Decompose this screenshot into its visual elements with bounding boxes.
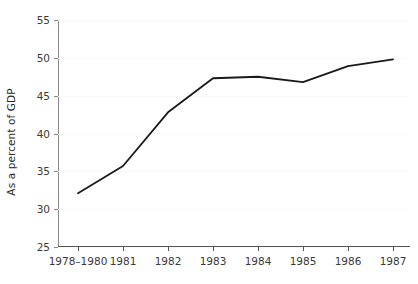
y-tick-label: 55 <box>37 14 50 26</box>
x-tick-label: 1987 <box>380 255 407 267</box>
y-tick-label: 45 <box>37 90 50 102</box>
y-axis-title: As a percent of GDP <box>0 0 22 284</box>
x-tick-mark <box>213 247 214 251</box>
y-tick-label: 40 <box>37 128 50 140</box>
x-tick-mark <box>258 247 259 251</box>
x-tick-mark <box>123 247 124 251</box>
x-tick-label: 1986 <box>335 255 362 267</box>
x-tick-mark <box>168 247 169 251</box>
plot-area: 25303540455055 1978–19801981198219831984… <box>58 20 410 247</box>
x-tick-label: 1982 <box>155 255 182 267</box>
chart-figure: As a percent of GDP 25303540455055 1978–… <box>0 0 418 284</box>
x-tick-label: 1981 <box>110 255 137 267</box>
gridline <box>58 247 410 248</box>
y-tick-mark <box>54 247 58 248</box>
x-tick-label: 1978–1980 <box>49 255 108 267</box>
x-tick-label: 1984 <box>245 255 272 267</box>
x-tick-label: 1983 <box>200 255 227 267</box>
line-series-gdp-percent <box>78 59 393 193</box>
y-tick-label: 25 <box>37 241 50 253</box>
x-tick-mark <box>348 247 349 251</box>
y-tick-label: 30 <box>37 203 50 215</box>
x-tick-mark <box>78 247 79 251</box>
line-series-layer <box>58 20 410 247</box>
x-tick-label: 1985 <box>290 255 317 267</box>
x-tick-mark <box>303 247 304 251</box>
x-tick-mark <box>393 247 394 251</box>
y-tick-label: 35 <box>37 165 50 177</box>
y-tick-label: 50 <box>37 52 50 64</box>
